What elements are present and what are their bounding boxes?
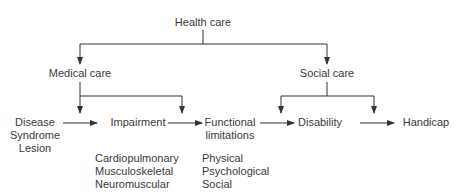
- functional-line-1: Functional: [205, 116, 256, 129]
- impairment-type-item: Neuromuscular: [95, 178, 179, 191]
- functional-type-item: Physical: [202, 152, 269, 165]
- disease-line-1: Disease: [10, 116, 60, 129]
- node-medical-care: Medical care: [49, 67, 111, 80]
- node-social-care: Social care: [300, 67, 354, 80]
- disease-line-2: Syndrome: [10, 129, 60, 142]
- node-disability: Disability: [298, 116, 342, 129]
- impairment-type-item: Cardiopulmonary: [95, 152, 179, 165]
- disease-line-3: Lesion: [10, 142, 60, 155]
- impairment-type-item: Musculoskeletal: [95, 165, 179, 178]
- node-handicap: Handicap: [403, 116, 449, 129]
- node-functional-limitations: Functional limitations: [205, 116, 256, 142]
- node-health-care: Health care: [175, 16, 231, 29]
- functional-type-item: Social: [202, 178, 269, 191]
- functional-types-list: Physical Psychological Social: [202, 152, 269, 191]
- node-impairment: Impairment: [110, 116, 165, 129]
- functional-type-item: Psychological: [202, 165, 269, 178]
- node-disease: Disease Syndrome Lesion: [10, 116, 60, 155]
- impairment-types-list: Cardiopulmonary Musculoskeletal Neuromus…: [95, 152, 179, 191]
- functional-line-2: limitations: [205, 129, 256, 142]
